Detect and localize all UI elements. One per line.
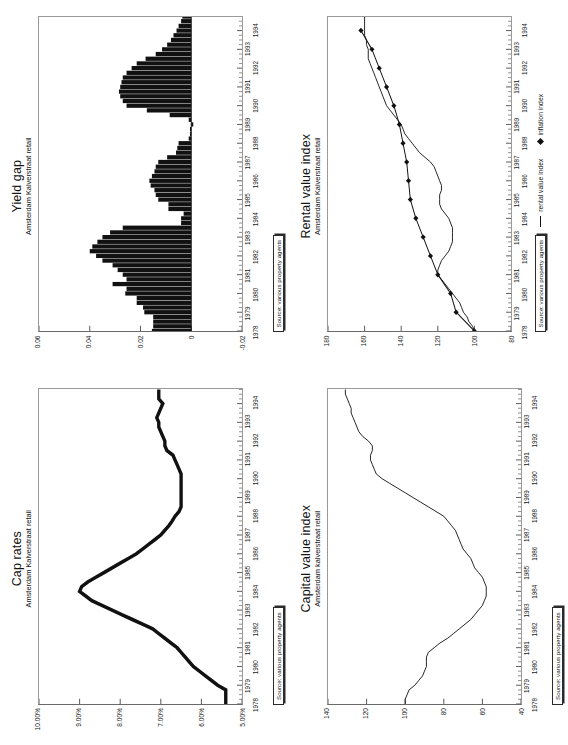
plot-svg-yield-gap <box>39 17 242 332</box>
x-tick-label: 1992 <box>522 61 528 75</box>
x-tick-label: 1982 <box>522 250 528 264</box>
y-tick-label: 0.02 <box>137 336 144 363</box>
x-tick-label: 1988 <box>522 137 528 151</box>
x-tick-label: 1978 <box>532 698 538 712</box>
x-tick-label: 1984 <box>522 212 528 226</box>
x-tick-label: 1993 <box>524 415 530 429</box>
x-tick-label: 1988 <box>253 137 259 151</box>
source-note-cap-rates: Source: various property agents <box>273 607 284 705</box>
x-tick-label: 1991 <box>245 452 251 466</box>
x-tick-label: 1990 <box>522 99 528 113</box>
x-tick-label: 1982 <box>253 250 259 264</box>
x-tick-label: 1979 <box>514 307 520 321</box>
source-row-cap-rates: Source: various property agents <box>267 383 285 706</box>
y-tick-label: 5.00% <box>240 708 247 735</box>
x-tick-label: 1987 <box>524 528 530 542</box>
plot-area-yield-gap: -0.0200.020.040.06 197819791980198119821… <box>38 10 261 363</box>
x-axis-labels-yield-gap: 1978197919801981198219831984198519861987… <box>244 16 261 333</box>
x-tick-label: 1993 <box>245 415 251 429</box>
source-row-yield-gap: Source: various property agents <box>267 10 285 333</box>
x-tick-label: 1979 <box>524 679 530 693</box>
x-tick-label: 1985 <box>245 193 251 207</box>
x-tick-label: 1986 <box>532 547 538 561</box>
chart-title-cap-rates: Cap rates <box>10 383 24 736</box>
x-tick-label: 1978 <box>522 325 528 339</box>
x-tick-label: 1984 <box>532 585 538 599</box>
x-tick-label: 1983 <box>514 231 520 245</box>
y-tick-label: 160 <box>361 336 368 363</box>
chart-subtitle-rental-value-index: Amsterdam Kalverstraat retail <box>314 10 322 363</box>
x-tick-label: 1987 <box>245 528 251 542</box>
x-tick-label: 1993 <box>514 42 520 56</box>
y-tick-label: 60 <box>480 708 487 735</box>
x-tick-label: 1980 <box>522 288 528 302</box>
x-tick-label: 1992 <box>253 433 259 447</box>
x-tick-label: 1989 <box>524 490 530 504</box>
y-tick-label: 100 <box>472 336 479 363</box>
line-swatch-icon <box>540 216 541 227</box>
x-tick-label: 1987 <box>514 155 520 169</box>
x-tick-label: 1988 <box>253 509 259 523</box>
chart-subtitle-capital-value-index: Amsterdam kalverstraat retail <box>314 383 322 736</box>
legend-item-rental-value-index: rental value index <box>537 159 544 227</box>
legend-and-source-rental: Source: various property agents rental v… <box>535 10 546 333</box>
y-tick-label: 180 <box>324 336 331 363</box>
plot-svg-rental-value-index <box>328 17 511 332</box>
x-tick-label: 1978 <box>253 698 259 712</box>
chart-title-yield-gap: Yield gap <box>10 10 24 363</box>
x-tick-label: 1991 <box>245 80 251 94</box>
x-tick-label: 1990 <box>532 471 538 485</box>
x-tick-label: 1990 <box>253 471 259 485</box>
x-tick-label: 1985 <box>524 566 530 580</box>
x-tick-label: 1980 <box>532 660 538 674</box>
chart-title-rental-value-index: Rental value index <box>299 10 313 363</box>
x-tick-label: 1992 <box>532 433 538 447</box>
y-tick-label: 120 <box>435 336 442 363</box>
x-tick-label: 1982 <box>253 622 259 636</box>
y-tick-label: 80 <box>509 336 516 363</box>
chart-title-capital-value-index: Capital value index <box>299 383 313 736</box>
plot-svg-cap-rates <box>39 390 242 705</box>
x-tick-label: 1994 <box>253 396 259 410</box>
x-tick-label: 1978 <box>253 325 259 339</box>
chart-panel-yield-gap: Yield gap Amsterdam Kalverstraat retail … <box>0 0 289 373</box>
x-axis-labels-capital-value-index: 1978197919801981198219831984198519861987… <box>523 389 540 706</box>
x-tick-label: 1985 <box>245 566 251 580</box>
legend-label-rental-value-index: rental value index <box>537 159 544 212</box>
x-tick-label: 1983 <box>245 604 251 618</box>
x-tick-label: 1982 <box>532 622 538 636</box>
x-tick-label: 1981 <box>245 269 251 283</box>
x-tick-label: 1986 <box>522 174 528 188</box>
x-tick-label: 1994 <box>532 396 538 410</box>
x-tick-label: 1990 <box>253 99 259 113</box>
y-tick-label: -0.02 <box>240 336 247 363</box>
y-tick-label: 140 <box>324 708 331 735</box>
x-tick-label: 1979 <box>245 307 251 321</box>
y-tick-label: 8.00% <box>117 708 124 735</box>
y-tick-label: 10.00% <box>35 708 42 735</box>
x-tick-label: 1991 <box>514 80 520 94</box>
y-tick-label: 100 <box>402 708 409 735</box>
source-row-capital-value-index: Source: various property agents <box>546 383 564 706</box>
plot-area-capital-value-index: 406080100120140 197819791980198119821983… <box>327 383 540 736</box>
x-tick-label: 1986 <box>253 174 259 188</box>
plot-box-rental-value-index <box>327 16 512 333</box>
x-tick-label: 1994 <box>522 23 528 37</box>
y-tick-label: 0 <box>189 336 196 363</box>
x-tick-label: 1981 <box>514 269 520 283</box>
y-tick-label: 6.00% <box>199 708 206 735</box>
x-tick-label: 1981 <box>524 641 530 655</box>
plot-svg-capital-value-index <box>328 390 521 705</box>
x-tick-label: 1991 <box>524 452 530 466</box>
chart-subtitle-yield-gap: Amsterdam Kalverstraat retail <box>25 10 33 363</box>
y-tick-label: 40 <box>519 708 526 735</box>
x-tick-label: 1988 <box>532 509 538 523</box>
x-tick-label: 1986 <box>253 547 259 561</box>
x-axis-labels-cap-rates: 1978197919801981198219831984198519861987… <box>244 389 261 706</box>
source-note-capital-value-index: Source: various property agents <box>552 607 563 705</box>
x-tick-label: 1980 <box>253 288 259 302</box>
plot-box-yield-gap <box>38 16 243 333</box>
chart-panel-rental-value-index: Rental value index Amsterdam Kalverstraa… <box>289 0 568 373</box>
